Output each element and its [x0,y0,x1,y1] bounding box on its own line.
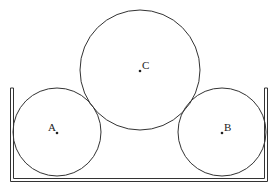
center-dot-a [56,132,59,135]
cylinder-c: C [80,10,200,130]
label-c: C [142,59,149,71]
diagram-canvas: C A B [0,0,277,192]
cylinder-b: B [178,88,266,176]
label-a: A [48,121,56,133]
label-b: B [224,121,231,133]
center-dot-b [221,132,224,135]
cylinder-a: A [13,88,101,176]
center-dot-c [139,70,142,73]
